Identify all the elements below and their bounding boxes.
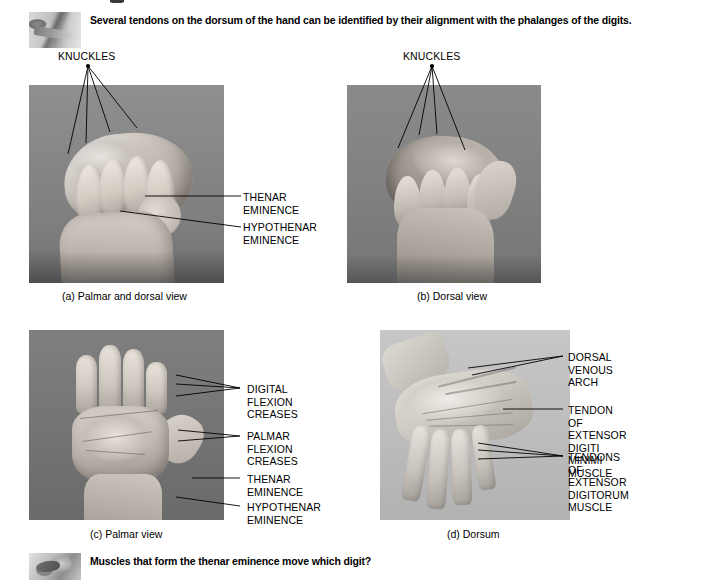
panel-d-photo [380,330,570,520]
hand-thumbnail-icon [29,553,81,580]
panel-c-label-hypothenar-eminence: HYPOTHENAR EMINENCE [247,501,321,526]
panel-d-label-dorsal-venous-arch: DORSAL VENOUS ARCH [568,351,613,389]
panel-a-label-thenar-eminence: THENAR EMINENCE [243,191,299,216]
panel-c-photo [29,330,224,520]
panel-b-caption: (b) Dorsal view [417,290,487,303]
panel-c-label-digital-flexion-creases: DIGITAL FLEXION CREASES [247,383,298,421]
intro-banner: Several tendons on the dorsum of the han… [29,12,632,48]
intro-text: Several tendons on the dorsum of the han… [90,12,632,27]
question-banner: Muscles that form the thenar eminence mo… [29,553,371,580]
arm-thumbnail-icon [29,12,81,48]
cropped-element-sliver [110,0,124,3]
panel-a-label-knuckles: KNUCKLES [58,50,115,63]
panel-b-photo [347,85,541,283]
panel-a-photo [29,85,224,283]
panel-c-label-palmar-flexion-creases: PALMAR FLEXION CREASES [247,430,298,468]
question-text: Muscles that form the thenar eminence mo… [90,553,371,568]
panel-c-label-thenar-eminence: THENAR EMINENCE [247,473,303,498]
panel-a-caption: (a) Palmar and dorsal view [62,290,187,303]
panel-c-caption: (c) Palmar view [90,528,162,541]
panel-d-label-tendons-extensor-digitorum: TENDONS OF EXTENSOR DIGITORUM MUSCLE [568,451,629,514]
panel-b-label-knuckles: KNUCKLES [403,50,460,63]
panel-d-caption: (d) Dorsum [447,528,500,541]
panel-a-label-hypothenar-eminence: HYPOTHENAR EMINENCE [243,221,317,246]
